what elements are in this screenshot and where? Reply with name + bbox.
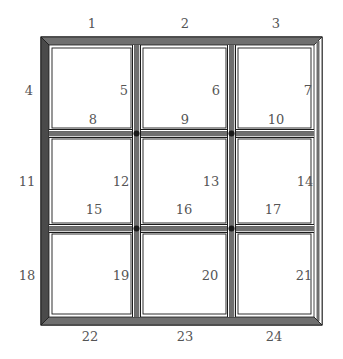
- label-21: 21: [296, 268, 313, 283]
- horizontal-bars: [49, 129, 314, 233]
- vertical-bars: [132, 45, 236, 317]
- label-12: 12: [113, 174, 130, 189]
- label-5: 5: [120, 83, 128, 98]
- label-22: 22: [82, 329, 99, 344]
- label-9: 9: [181, 112, 189, 127]
- outer-frame: [41, 37, 322, 325]
- label-18: 18: [19, 268, 36, 283]
- label-3: 3: [272, 16, 280, 31]
- bar-labels: 1 2 3 4 5 6 7 8 9 10 11 12 13 14 15 16 1…: [19, 16, 314, 344]
- label-8: 8: [89, 112, 97, 127]
- label-2: 2: [181, 16, 189, 31]
- label-19: 19: [113, 268, 130, 283]
- label-20: 20: [202, 268, 219, 283]
- label-6: 6: [212, 83, 220, 98]
- label-7: 7: [304, 83, 312, 98]
- label-17: 17: [265, 202, 282, 217]
- label-10: 10: [268, 112, 285, 127]
- label-15: 15: [86, 202, 103, 217]
- label-23: 23: [177, 329, 194, 344]
- matchstick-grid-diagram: 1 2 3 4 5 6 7 8 9 10 11 12 13 14 15 16 1…: [0, 0, 343, 359]
- cell-bevels: [52, 48, 311, 314]
- label-1: 1: [88, 16, 96, 31]
- label-14: 14: [297, 174, 314, 189]
- label-16: 16: [176, 202, 193, 217]
- label-24: 24: [266, 329, 283, 344]
- label-4: 4: [25, 83, 33, 98]
- label-11: 11: [19, 174, 36, 189]
- label-13: 13: [203, 174, 220, 189]
